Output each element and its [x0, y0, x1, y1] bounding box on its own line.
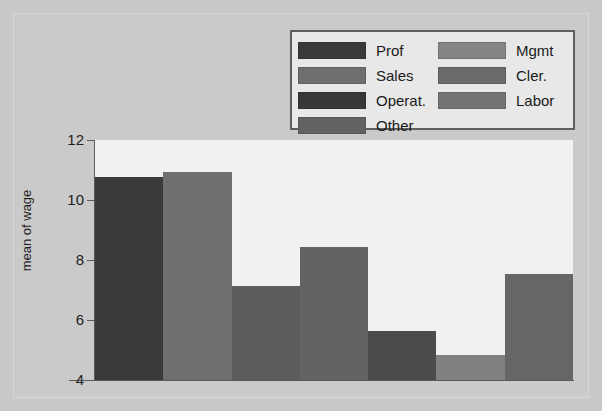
legend-entry: Labor: [438, 88, 554, 112]
y-tick-label: 10: [52, 192, 84, 208]
y-tick-mark: [87, 320, 94, 321]
legend-swatch-icon: [298, 92, 366, 109]
y-tick-label-text: 12: [67, 132, 84, 147]
bar-other: [300, 247, 368, 381]
legend-entry: Operat.: [298, 88, 426, 112]
legend-label: Sales: [376, 67, 414, 84]
y-tick-label-text: 6: [76, 312, 84, 327]
y-tick-mark: [87, 260, 94, 261]
y-tick-label: 12: [52, 132, 84, 148]
legend-column-right: MgmtCler.Labor: [438, 38, 554, 113]
y-tick-label-text: 4: [76, 372, 84, 387]
legend-label: Mgmt: [516, 42, 554, 59]
y-axis-title: mean of wage: [19, 171, 34, 291]
y-axis-line: [94, 140, 95, 381]
legend-swatch-icon: [298, 42, 366, 59]
legend-label: Other: [376, 117, 414, 134]
bar-cler: [436, 355, 504, 381]
y-tick-label-text: 8: [76, 252, 84, 267]
bars-layer: [95, 140, 573, 380]
legend-label: Cler.: [516, 67, 547, 84]
chart-screenshot: 4681012 mean of wage ProfSalesOperat.Oth…: [0, 0, 602, 411]
bar-labor: [505, 274, 573, 381]
y-tick-mark: [87, 380, 94, 381]
legend-entry: Mgmt: [438, 38, 554, 62]
legend-label: Operat.: [376, 92, 426, 109]
legend-entry: Other: [298, 113, 426, 137]
chart-legend: ProfSalesOperat.Other MgmtCler.Labor: [290, 30, 575, 130]
plot-area: [95, 140, 573, 380]
y-tick-label: 4: [52, 372, 84, 388]
y-tick-mark: [87, 200, 94, 201]
y-tick-label: 6: [52, 312, 84, 328]
legend-column-left: ProfSalesOperat.Other: [298, 38, 426, 138]
y-tick-label: 8: [52, 252, 84, 268]
y-tick-label-text: 10: [67, 192, 84, 207]
bar-mgmt: [368, 331, 436, 381]
legend-swatch-icon: [438, 92, 506, 109]
legend-entry: Prof: [298, 38, 426, 62]
bar-sales: [163, 172, 231, 380]
legend-entry: Sales: [298, 63, 426, 87]
legend-swatch-icon: [438, 42, 506, 59]
y-tick-mark: [87, 140, 94, 141]
legend-entry: Cler.: [438, 63, 554, 87]
x-axis-line: [69, 380, 574, 381]
legend-swatch-icon: [438, 67, 506, 84]
bar-prof: [95, 177, 163, 380]
legend-swatch-icon: [298, 67, 366, 84]
legend-swatch-icon: [298, 117, 366, 134]
legend-label: Labor: [516, 92, 554, 109]
legend-label: Prof: [376, 42, 404, 59]
bar-operat: [232, 286, 300, 381]
